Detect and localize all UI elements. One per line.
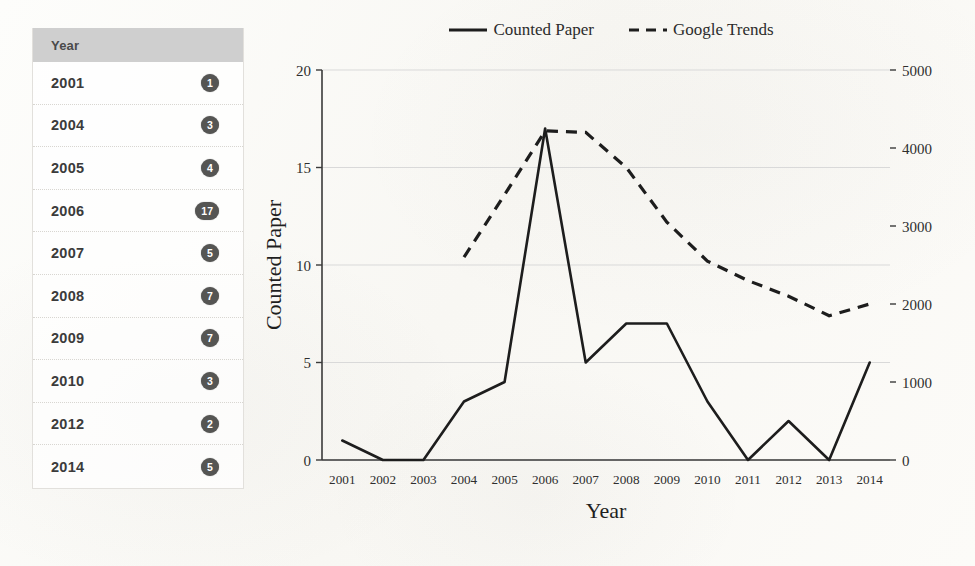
table-cell-year: 2007: [51, 245, 84, 261]
table-cell-count-badge: 7: [201, 329, 219, 347]
x-axis-tick-label: 2008: [613, 472, 640, 487]
y2-axis-tick-label: 4000: [902, 141, 932, 157]
table-cell-count-badge: 3: [201, 116, 219, 134]
x-axis-tick-label: 2011: [735, 472, 761, 487]
table-row: 20103: [33, 360, 243, 403]
table-row: 20145: [33, 445, 243, 488]
table-row: 20097: [33, 318, 243, 361]
table-cell-year: 2010: [51, 373, 84, 389]
x-axis-tick-label: 2004: [451, 472, 478, 487]
series-line-counted-paper: [342, 129, 869, 461]
year-count-table: Year 20011200432005420061720075200872009…: [32, 28, 244, 489]
x-axis-tick-label: 2006: [532, 472, 559, 487]
table-row: 20087: [33, 275, 243, 318]
table-row: 20011: [33, 62, 243, 105]
x-axis-tick-label: 2001: [329, 472, 355, 487]
chart-plot-area: 05101520 010002000300040005000 200120022…: [255, 8, 967, 554]
chart-panel: Counted Paper Google Trends 05101520 010…: [255, 8, 967, 554]
table-row: 20075: [33, 232, 243, 275]
table-cell-count-badge: 5: [201, 458, 219, 476]
x-axis-title: Year: [586, 498, 627, 523]
y2-axis-tick-label: 1000: [902, 375, 932, 391]
table-row: 20054: [33, 147, 243, 190]
chart-x-axis: 2001200220032004200520062007200820092010…: [322, 460, 890, 487]
table-cell-year: 2014: [51, 459, 84, 475]
table-header-year: Year: [51, 38, 79, 53]
x-axis-tick-label: 2005: [491, 472, 518, 487]
table-cell-count-badge: 3: [201, 372, 219, 390]
x-axis-tick-label: 2010: [694, 472, 721, 487]
chart-y-axis: 05101520: [296, 63, 322, 469]
y-axis-tick-label: 20: [296, 63, 311, 79]
table-cell-year: 2008: [51, 288, 84, 304]
x-axis-tick-label: 2002: [370, 472, 396, 487]
y-axis-tick-label: 10: [296, 258, 311, 274]
table-cell-count-badge: 2: [201, 415, 219, 433]
x-axis-tick-label: 2007: [573, 472, 600, 487]
table-cell-count-badge: 17: [195, 202, 219, 220]
x-axis-tick-label: 2013: [816, 472, 843, 487]
table-cell-count-badge: 5: [201, 244, 219, 262]
y2-axis-tick-label: 5000: [902, 63, 932, 79]
chart-y2-axis: 010002000300040005000: [890, 63, 932, 469]
table-row: 20122: [33, 403, 243, 446]
table-cell-year: 2004: [51, 117, 84, 133]
chart-gridlines: [322, 70, 890, 460]
table-cell-year: 2001: [51, 75, 84, 91]
x-axis-tick-label: 2003: [410, 472, 437, 487]
x-axis-tick-label: 2009: [654, 472, 681, 487]
table-row: 200617: [33, 190, 243, 233]
table-cell-count-badge: 4: [201, 159, 219, 177]
chart-series: [342, 129, 869, 461]
series-line-google-trends: [464, 131, 870, 316]
table-cell-year: 2006: [51, 203, 84, 219]
table-row: 20043: [33, 105, 243, 148]
y2-axis-tick-label: 0: [902, 453, 910, 469]
y-axis-tick-label: 0: [304, 453, 312, 469]
table-cell-count-badge: 7: [201, 287, 219, 305]
table-body: 2001120043200542006172007520087200972010…: [33, 62, 243, 488]
table-cell-year: 2012: [51, 416, 84, 432]
y-axis-tick-label: 15: [296, 160, 311, 176]
y2-axis-tick-label: 3000: [902, 219, 932, 235]
y-axis-title: Counted Paper: [261, 199, 286, 330]
y2-axis-tick-label: 2000: [902, 297, 932, 313]
y-axis-tick-label: 5: [304, 355, 312, 371]
table-cell-year: 2009: [51, 330, 84, 346]
x-axis-tick-label: 2012: [775, 472, 801, 487]
table-cell-count-badge: 1: [201, 74, 219, 92]
table-header-row: Year: [33, 28, 243, 62]
table-cell-year: 2005: [51, 160, 84, 176]
x-axis-tick-label: 2014: [857, 472, 884, 487]
